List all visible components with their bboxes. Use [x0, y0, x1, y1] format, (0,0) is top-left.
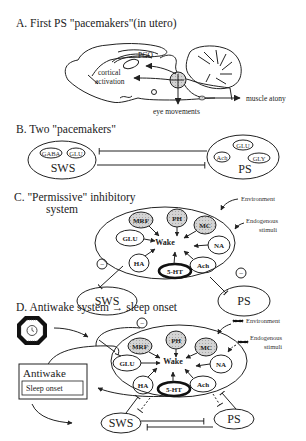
figure: A. First PS "pacemakers"(in utero)	[0, 0, 306, 441]
panel-b-title: B. Two "pacemakers"	[16, 123, 116, 136]
wake-label: Wake	[155, 238, 175, 247]
label-endogenous: Endogenous	[250, 334, 283, 341]
panel-a-title: A. First PS "pacemakers"(in utero)	[16, 17, 177, 30]
label-muscle-atony: muscle atony	[246, 94, 286, 103]
node-5ht: 5-HT	[167, 268, 183, 276]
label-eye-movements: eye movements	[153, 107, 200, 116]
label-stimuli: stimuli	[259, 226, 277, 233]
clock-icon	[17, 316, 47, 345]
label-ps: PS	[237, 294, 250, 308]
node-mrf: MRF	[132, 343, 148, 351]
label-sws: SWS	[109, 416, 134, 430]
label-sws: SWS	[51, 161, 76, 175]
dna-icon	[233, 320, 243, 322]
wake-label: Wake	[163, 357, 183, 366]
node-na: NA	[214, 242, 224, 250]
minus-badge: −	[239, 269, 243, 278]
label-activation: activation	[95, 77, 125, 86]
node-gaba: GABA	[42, 150, 61, 157]
minus-badge: −	[140, 319, 144, 328]
node-glu: GLU	[236, 142, 250, 149]
node-ach: Ach	[217, 154, 229, 161]
label-ps: PS	[238, 162, 251, 176]
label-ps: PS	[227, 412, 240, 426]
sleep-onset-label: Sleep onset	[26, 384, 63, 393]
label-endogenous: Endogenous	[246, 217, 279, 224]
node-mc: MC	[199, 222, 211, 230]
label-stimuli: stimuli	[264, 343, 282, 350]
node-mc: MC	[200, 344, 212, 352]
node-ha: HA	[134, 260, 145, 268]
panel-c-title-2: system	[46, 203, 78, 216]
arrow-to-cortex	[134, 78, 172, 80]
brain-sagittal-outline	[65, 44, 241, 103]
label-environment: Environment	[241, 195, 275, 202]
panel-b: B. Two "pacemakers" GABA GLU SWS GLU Ach…	[16, 123, 279, 179]
node-ha: HA	[138, 382, 149, 390]
minus-badge: −	[100, 260, 104, 269]
panel-d-title: D. Antiwake system → sleep onset	[16, 301, 178, 314]
label-cortical: cortical	[98, 68, 121, 77]
label-pgo: PGO	[138, 51, 154, 60]
panel-a: A. First PS "pacemakers"(in utero)	[16, 17, 286, 116]
node-na: NA	[216, 361, 226, 369]
node-glu: GLU	[122, 235, 137, 243]
antiwake-label: Antiwake	[23, 367, 66, 379]
label-environment: Environment	[246, 317, 280, 324]
node-ph: PH	[171, 337, 181, 345]
antiwake-box: Antiwake Sleep onset	[19, 364, 87, 399]
panel-c: C. "Permissive" inhibitory system Wake M…	[14, 191, 279, 316]
sws-pacemaker: GABA GLU SWS	[28, 141, 96, 179]
panel-d: D. Antiwake system → sleep onset − Wake …	[16, 301, 283, 433]
node-ach: Ach	[197, 381, 209, 389]
node-glu: GLU	[69, 150, 83, 157]
dna-icon	[238, 341, 248, 343]
node-glu: GLU	[119, 360, 134, 368]
node-mrf: MRF	[133, 217, 149, 225]
node-ach: Ach	[197, 262, 209, 270]
ps-pacemaker: GLU Ach GLY PS	[207, 135, 279, 179]
arrow-to-pgo	[146, 66, 176, 74]
node-gly: GLY	[253, 155, 266, 162]
node-5ht: 5-HT	[166, 386, 182, 394]
node-ph: PH	[172, 215, 182, 223]
